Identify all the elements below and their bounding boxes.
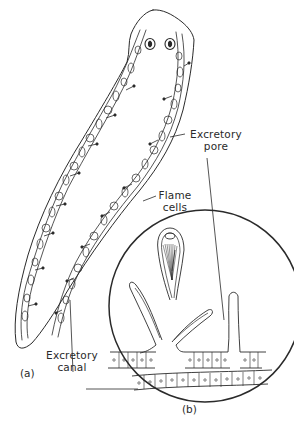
planarian-excretory-diagram: Excretory pore Flame cells Excretory can… <box>0 0 294 424</box>
magnified-detail-circle <box>109 210 294 402</box>
label-excretory-pore: Excretory pore <box>186 128 246 152</box>
leader-excretory-pore <box>170 134 185 137</box>
panel-label-b: (b) <box>182 403 197 415</box>
label-excretory-canal: Excretory canal <box>44 349 100 373</box>
flatworm-body-outline <box>15 10 194 348</box>
label-flame-cells: Flame cells <box>155 189 195 213</box>
panel-label-a: (a) <box>20 367 35 379</box>
